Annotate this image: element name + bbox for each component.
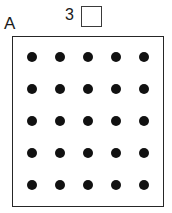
- dot-cell: [18, 169, 46, 201]
- dot-cell: [74, 137, 102, 169]
- dot-marker: [27, 116, 37, 126]
- dot-marker: [139, 180, 149, 190]
- dot-cell: [46, 105, 74, 137]
- dot-marker: [55, 148, 65, 158]
- dot-cell: [18, 41, 46, 73]
- dot-cell: [18, 137, 46, 169]
- dot-marker: [83, 84, 93, 94]
- dot-cell: [74, 73, 102, 105]
- dot-marker: [83, 52, 93, 62]
- dot-cell: [46, 169, 74, 201]
- dot-cell: [18, 73, 46, 105]
- dot-marker: [139, 52, 149, 62]
- dot-marker: [139, 116, 149, 126]
- dot-cell: [102, 169, 130, 201]
- dot-cell: [18, 105, 46, 137]
- section-label: A: [4, 15, 15, 33]
- dot-cell: [130, 137, 158, 169]
- answer-box[interactable]: [81, 6, 102, 27]
- dot-cell: [46, 73, 74, 105]
- dot-marker: [55, 52, 65, 62]
- dot-marker: [111, 180, 121, 190]
- worksheet-page: A 3: [0, 0, 172, 213]
- dot-cell: [46, 41, 74, 73]
- dot-array-grid: [13, 37, 163, 206]
- dot-marker: [27, 84, 37, 94]
- dot-array-frame: [12, 36, 164, 207]
- dot-cell: [130, 105, 158, 137]
- dot-marker: [55, 180, 65, 190]
- dot-marker: [139, 84, 149, 94]
- dot-cell: [102, 41, 130, 73]
- dot-marker: [83, 148, 93, 158]
- dot-marker: [27, 180, 37, 190]
- dot-cell: [102, 105, 130, 137]
- problem-number: 3: [65, 5, 74, 25]
- dot-marker: [27, 52, 37, 62]
- dot-marker: [111, 52, 121, 62]
- dot-cell: [102, 73, 130, 105]
- dot-cell: [46, 137, 74, 169]
- dot-cell: [74, 105, 102, 137]
- dot-cell: [130, 73, 158, 105]
- dot-cell: [74, 41, 102, 73]
- dot-marker: [111, 84, 121, 94]
- dot-cell: [102, 137, 130, 169]
- dot-marker: [111, 148, 121, 158]
- dot-marker: [139, 148, 149, 158]
- dot-marker: [83, 116, 93, 126]
- dot-marker: [55, 84, 65, 94]
- dot-cell: [130, 41, 158, 73]
- dot-marker: [27, 148, 37, 158]
- dot-marker: [111, 116, 121, 126]
- dot-cell: [74, 169, 102, 201]
- dot-marker: [83, 180, 93, 190]
- dot-cell: [130, 169, 158, 201]
- dot-marker: [55, 116, 65, 126]
